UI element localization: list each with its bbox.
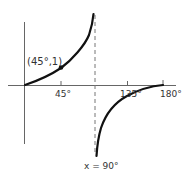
- point-label: (45°,1): [27, 56, 62, 67]
- tangent-graph: (45°,1) 45° 135° 180° x = 90°: [0, 0, 191, 179]
- tick-label-45: 45°: [55, 89, 71, 99]
- tangent-curve-left: [25, 14, 94, 85]
- asymptote-label: x = 90°: [84, 161, 119, 171]
- tick-label-135: 135°: [120, 89, 142, 99]
- chart-canvas: (45°,1) 45° 135° 180° x = 90°: [0, 0, 191, 179]
- tick-label-180: 180°: [160, 89, 182, 99]
